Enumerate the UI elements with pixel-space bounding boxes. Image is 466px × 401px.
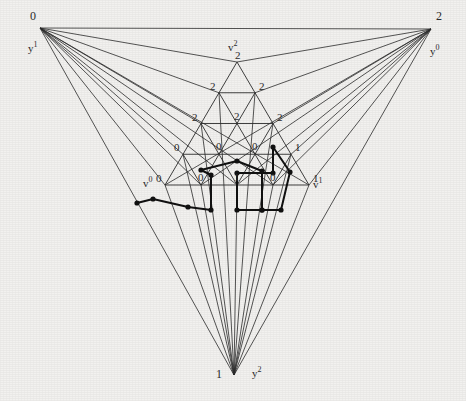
lattice-label-r4-c4: 1 [313, 173, 319, 184]
lattice-label-r1-c0: 2 [210, 81, 216, 92]
lattice-label-r4-c3: 0 [270, 172, 276, 183]
sperner-lemma-diagram [0, 0, 466, 401]
lattice-label-r1-c1: 2 [259, 81, 265, 92]
label-bottom-number: 1 [216, 368, 222, 380]
lattice-label-r0-c0: 2 [235, 50, 241, 61]
label-top-right-y: y0 [430, 44, 440, 57]
lattice-label-r4-c0: 0 [156, 173, 162, 184]
label-left-vertex-v: v0 [143, 176, 153, 189]
lattice-label-r2-c1: 2 [234, 111, 240, 122]
lattice-label-r3-c1: 0 [216, 141, 222, 152]
lattice-label-r2-c2: 2 [277, 112, 283, 123]
label-top-left-y: y1 [28, 41, 38, 54]
lattice-label-r3-c2: 0 [252, 141, 258, 152]
lattice-label-r3-c0: 0 [174, 142, 180, 153]
lattice-label-r3-c3: 1 [295, 142, 301, 153]
label-top-left-number: 0 [30, 10, 36, 22]
lattice-label-r2-c0: 2 [192, 112, 198, 123]
outer-triangle-lines [40, 28, 431, 375]
label-bottom-y: y2 [252, 366, 262, 379]
lattice-label-r4-c1: 0 [198, 172, 204, 183]
lattice-label-r4-c2: 1 [234, 172, 240, 183]
figure-canvas: 0 y1 2 y0 1 y2 v2 v0 v1 222222000100101 [0, 0, 466, 401]
label-top-right-number: 2 [436, 10, 442, 22]
